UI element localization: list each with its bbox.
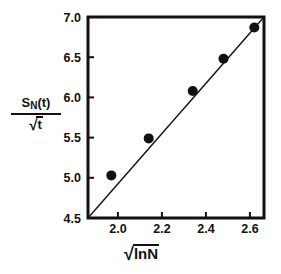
x-axis-label: √lnN: [124, 244, 224, 263]
figure: 4.55.05.56.06.57.0 2.02.22.42.62.8 SN(t)…: [0, 0, 281, 274]
y-tick-label: 4.5: [64, 212, 81, 226]
y-tick-label: 5.5: [64, 131, 81, 145]
sqrt-lnN-radical: √lnN: [124, 244, 159, 263]
sqrt-t-radical: √t: [29, 116, 43, 132]
y-axis-label-numerator: SN(t): [10, 96, 62, 113]
y-axis-label-denominator: √t: [10, 115, 62, 132]
data-point-marker: [249, 22, 259, 32]
chart-background: [0, 0, 281, 274]
x-tick-label: 2.6: [241, 222, 258, 236]
y-label-symbol: S: [22, 95, 31, 110]
y-tick-label: 6.5: [64, 51, 81, 65]
data-point-marker: [188, 86, 198, 96]
y-tick-label: 7.0: [64, 11, 81, 25]
chart-canvas: 4.55.05.56.06.57.0 2.02.22.42.62.8: [0, 0, 281, 274]
x-tick-label: 2.2: [153, 222, 170, 236]
x-tick-label: 2.4: [197, 222, 214, 236]
radicand-lnN: lnN: [133, 244, 159, 262]
x-tick-label: 2.0: [109, 222, 126, 236]
y-label-argument: (t): [37, 95, 50, 110]
radicand-t: t: [36, 116, 42, 132]
y-axis-label: SN(t) √t: [10, 96, 62, 132]
data-point-marker: [106, 170, 116, 180]
y-tick-label: 6.0: [64, 91, 81, 105]
data-point-marker: [219, 54, 229, 64]
data-point-marker: [144, 133, 154, 143]
y-tick-label: 5.0: [64, 171, 81, 185]
